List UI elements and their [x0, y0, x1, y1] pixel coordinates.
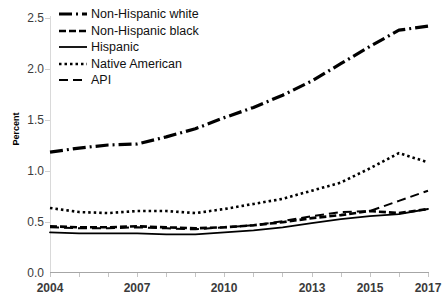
legend-label: Native American	[91, 56, 182, 73]
legend-key-dash-dot-icon	[58, 8, 88, 20]
legend-item-hispanic[interactable]: Hispanic	[58, 39, 199, 56]
legend: Non-Hispanic white Non-Hispanic black Hi…	[58, 6, 199, 89]
legend-key-solid-icon	[58, 41, 88, 53]
legend-item-native-american[interactable]: Native American	[58, 56, 199, 73]
legend-label: Non-Hispanic white	[91, 6, 199, 23]
legend-label: Non-Hispanic black	[91, 23, 199, 40]
legend-label: Hispanic	[91, 39, 139, 56]
legend-label: API	[91, 72, 111, 89]
legend-key-dashed-icon	[58, 25, 88, 37]
legend-item-api[interactable]: API	[58, 72, 199, 89]
series-line	[50, 191, 428, 230]
series-line	[50, 153, 428, 213]
legend-key-long-dash-icon	[58, 74, 88, 86]
legend-key-dotted-icon	[58, 58, 88, 70]
legend-item-non-hispanic-black[interactable]: Non-Hispanic black	[58, 23, 199, 40]
legend-item-non-hispanic-white[interactable]: Non-Hispanic white	[58, 6, 199, 23]
